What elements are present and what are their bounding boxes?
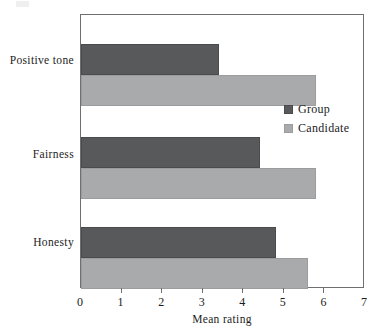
bar-candidate-fairness <box>81 168 316 199</box>
legend-item-candidate: Candidate <box>284 120 349 137</box>
x-axis-tick <box>283 288 284 293</box>
bar-candidate-honesty <box>81 258 308 289</box>
legend-item-group: Group <box>284 101 349 118</box>
bar-candidate-positive-tone <box>81 75 316 106</box>
bar-group-fairness <box>81 137 260 168</box>
x-axis-tick-label: 0 <box>65 295 95 310</box>
x-axis-tick-label: 2 <box>146 295 176 310</box>
scan-artifact <box>16 1 29 7</box>
bar-group-honesty <box>81 227 276 258</box>
plot-area: Group Candidate <box>80 14 364 288</box>
bar-chart-figure: Positive tone Fairness Honesty Group Can… <box>0 0 386 329</box>
legend-label-candidate: Candidate <box>298 121 349 136</box>
legend: Group Candidate <box>284 101 349 139</box>
y-category-label-positive-tone: Positive tone <box>0 54 74 66</box>
x-axis-tick <box>242 288 243 293</box>
x-axis-tick-label: 3 <box>187 295 217 310</box>
legend-label-group: Group <box>298 102 330 117</box>
legend-swatch-candidate-icon <box>284 124 293 133</box>
bar-group-positive-tone <box>81 44 219 75</box>
x-axis-tick <box>161 288 162 293</box>
x-axis-tick-label: 1 <box>106 295 136 310</box>
x-axis-tick-label: 6 <box>308 295 338 310</box>
x-axis-tick <box>323 288 324 293</box>
y-category-label-honesty: Honesty <box>0 236 74 248</box>
legend-swatch-group-icon <box>284 105 293 114</box>
x-axis-tick-label: 7 <box>349 295 379 310</box>
x-axis-tick-label: 5 <box>268 295 298 310</box>
x-axis-title: Mean rating <box>80 313 364 325</box>
x-axis-tick <box>202 288 203 293</box>
x-axis-tick <box>121 288 122 293</box>
x-axis-tick-label: 4 <box>227 295 257 310</box>
y-category-label-fairness: Fairness <box>0 148 74 160</box>
